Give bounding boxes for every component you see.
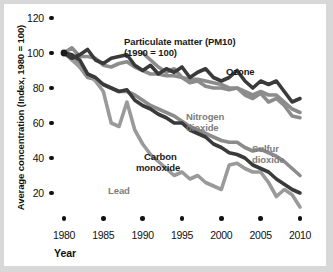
annotation-pm10-line2: (1990 = 100)	[124, 48, 177, 59]
origin-marker-dot	[61, 50, 68, 57]
annotation-co-line1: Carbon	[144, 152, 177, 163]
annotation-lead: Lead	[108, 186, 130, 197]
annotation-so2-line2: dioxide	[252, 155, 285, 166]
annotation-no2-line2: dioxide	[186, 123, 219, 134]
annotation-no2-line1: Nitrogen	[186, 112, 224, 123]
annotation-so2-line1: Sulfur	[252, 144, 279, 155]
annotation-ozone: Ozone	[226, 67, 255, 78]
annotation-pm10-line1: Particulate matter (PM10)	[124, 37, 236, 48]
chart-figure: Average concentration (Index, 1980 = 100…	[4, 4, 326, 266]
annotation-co-line2: monoxide	[136, 163, 180, 174]
